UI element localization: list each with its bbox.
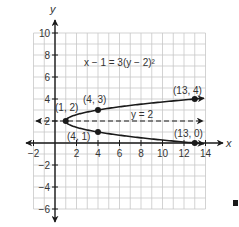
y-tick-label: 4: [44, 94, 50, 105]
x-tick-label: 8: [138, 148, 144, 159]
end-marker-square: [233, 200, 238, 206]
x-tick-label: 6: [117, 148, 123, 159]
y-tick-label: 10: [39, 28, 51, 39]
x-tick-label: 4: [95, 148, 101, 159]
x-tick-label: 12: [178, 148, 190, 159]
y-axis-label: y: [49, 3, 57, 15]
x-tick-label: 10: [157, 148, 169, 159]
data-point: [95, 129, 101, 135]
data-point: [63, 118, 69, 124]
equation-label: x − 1 = 3(y − 2)²: [84, 57, 156, 68]
axis-of-symmetry-label: y = 2: [131, 109, 153, 120]
point-label-4-1: (4, 1): [67, 131, 90, 142]
y-tick-label: −6: [39, 204, 51, 215]
point-label-13-4: (13, 4): [173, 85, 202, 96]
y-tick-label: 6: [44, 72, 50, 83]
x-tick-label: 2: [74, 148, 80, 159]
data-point: [192, 96, 198, 102]
x-tick-label: 14: [200, 148, 212, 159]
data-point: [95, 107, 101, 113]
y-tick-label: 8: [44, 50, 50, 61]
data-point: [192, 140, 198, 146]
point-label-vertex: (1, 2): [55, 102, 78, 113]
x-tick-label: −2: [28, 148, 40, 159]
point-label-13-0: (13, 0): [174, 128, 203, 139]
y-tick-label: −2: [39, 160, 51, 171]
y-tick-label: −4: [39, 182, 51, 193]
x-axis-label: x: [225, 137, 232, 149]
point-label-4-3: (4, 3): [83, 94, 106, 105]
parabola-graph: −22468101214 108642−2−4−6 x y x − 1 = 3(…: [0, 0, 239, 227]
